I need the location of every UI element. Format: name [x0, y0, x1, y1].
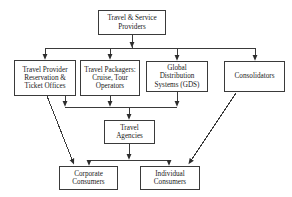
node-label: Consolidators: [233, 72, 277, 80]
node-label: Individual Consumers: [152, 170, 188, 186]
edge-consolidators-to-individual: [190, 93, 236, 162]
flowchart-diagram: Travel & Service Providers Travel Provid…: [0, 0, 292, 197]
node-corporate-consumers[interactable]: Corporate Consumers: [59, 166, 118, 190]
edge-reservation-to-corporate: [47, 96, 73, 162]
node-label: Global Distribution Systems (GDS): [147, 64, 207, 88]
node-individual-consumers[interactable]: Individual Consumers: [140, 166, 200, 190]
node-label: Travel & Service Providers: [105, 14, 158, 30]
node-travel-provider-reservation[interactable]: Travel Provider Reservation & Ticket Off…: [14, 60, 76, 96]
node-label: Corporate Consumers: [70, 170, 106, 186]
node-travel-agencies[interactable]: Travel Agencies: [104, 120, 155, 144]
node-consolidators[interactable]: Consolidators: [224, 61, 285, 92]
node-global-distribution-systems[interactable]: Global Distribution Systems (GDS): [146, 61, 208, 92]
node-travel-service-providers[interactable]: Travel & Service Providers: [98, 10, 166, 35]
node-label: Travel Agencies: [114, 124, 145, 140]
node-label: Travel Packagers: Cruise, Tour Operators: [82, 66, 137, 90]
node-label: Travel Provider Reservation & Ticket Off…: [20, 66, 69, 90]
node-travel-packagers[interactable]: Travel Packagers: Cruise, Tour Operators: [80, 60, 140, 96]
